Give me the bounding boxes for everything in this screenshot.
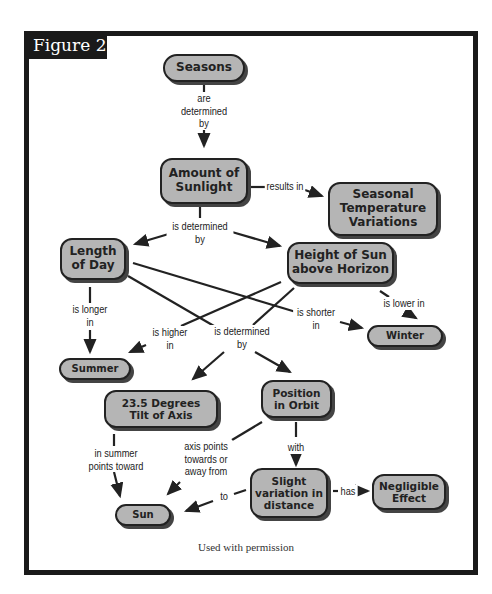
link-is-shorter-in: is shorter in xyxy=(293,306,339,331)
node-slight-variation: Slight variation in distance xyxy=(250,468,328,518)
link-to: to xyxy=(217,490,231,503)
link-is-determined-by-2: is determined by xyxy=(209,325,276,350)
link-are-determined-by: are determined by xyxy=(178,92,231,130)
node-length-of-day: Length of Day xyxy=(60,238,126,280)
link-with: with xyxy=(284,441,309,454)
link-is-higher-in: is higher in xyxy=(151,326,190,351)
node-summer: Summer xyxy=(59,358,131,380)
link-is-longer-in: is longer in xyxy=(69,303,111,328)
link-axis-points: axis points towards or away from xyxy=(180,440,233,478)
node-height-of-sun: Height of Sun above Horizon xyxy=(287,242,394,284)
node-seasons: Seasons xyxy=(163,54,245,82)
figure-caption: Used with permission xyxy=(0,541,492,553)
link-is-lower-in: is lower in xyxy=(379,297,428,310)
link-is-determined-by-1: is determined by xyxy=(167,220,234,245)
node-winter: Winter xyxy=(367,325,443,347)
link-in-summer-points-toward: in summer points toward xyxy=(88,447,144,472)
node-position-in-orbit: Position in Orbit xyxy=(261,380,332,418)
node-tilt-of-axis: 23.5 Degrees Tilt of Axis xyxy=(104,390,218,428)
node-negligible-effect: Negligible Effect xyxy=(372,474,446,510)
link-results-in: results in xyxy=(265,180,305,193)
node-sun: Sun xyxy=(115,504,171,526)
node-amount-of-sunlight: Amount of Sunlight xyxy=(160,158,248,204)
link-has: has xyxy=(338,485,357,498)
node-seasonal-temperature-variations: Seasonal Temperature Variations xyxy=(328,182,438,236)
